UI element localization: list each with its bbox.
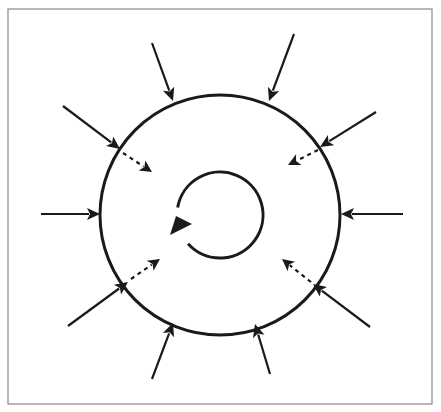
diagram-svg [0, 0, 441, 412]
diagram-canvas [0, 0, 441, 412]
diagram-frame [8, 9, 432, 404]
